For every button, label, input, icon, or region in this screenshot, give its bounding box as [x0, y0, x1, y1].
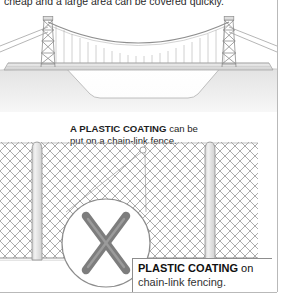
callout-origin-marker	[140, 147, 146, 153]
page-border-right	[277, 0, 278, 292]
caption-bold-term: PLASTIC COATING	[138, 262, 238, 274]
bridge-illustration	[0, 6, 277, 112]
caption-line-1: PLASTIC COATING on	[138, 261, 272, 275]
fence-post-right	[205, 142, 215, 260]
caption-line-2: chain-link fencing.	[138, 275, 272, 289]
figure-caption: PLASTIC COATING on chain-link fencing.	[132, 258, 272, 292]
main-suspension-cable	[48, 22, 229, 43]
bridge-svg	[0, 6, 277, 112]
page-border-bottom	[0, 292, 277, 293]
caption-line1-rest: on	[238, 262, 253, 274]
anchor-cables	[0, 27, 277, 52]
main-cable-inner	[48, 25, 229, 46]
figure-page: cheap and a large area can be covered qu…	[0, 0, 288, 303]
hanger-cables	[56, 26, 224, 67]
fence-post-left	[32, 142, 42, 260]
